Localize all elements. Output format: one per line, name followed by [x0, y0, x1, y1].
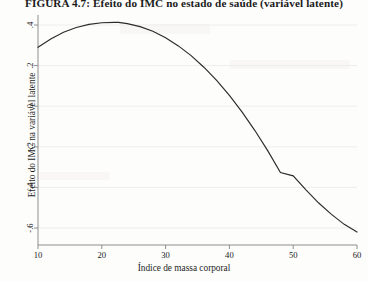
plot-area: .4.20-.2-.4-.6 102030405060 Efeito do IM… [0, 0, 368, 281]
x-axis-label: Índice de massa corporal [0, 263, 368, 273]
chart-svg: .4.20-.2-.4-.6 102030405060 [0, 0, 368, 281]
gridlines [38, 25, 357, 228]
x-axis-ticks: 102030405060 [34, 245, 362, 260]
svg-text:20: 20 [98, 250, 107, 260]
data-curve [38, 22, 357, 232]
svg-text:30: 30 [161, 250, 170, 260]
svg-text:60: 60 [353, 250, 362, 260]
svg-text:40: 40 [225, 250, 234, 260]
svg-text:.4: .4 [25, 21, 35, 28]
figure-container: FIGURA 4.7: Efeito do IMC no estado de s… [0, 0, 368, 281]
svg-text:10: 10 [34, 250, 43, 260]
y-axis-label: Efeito do IMC na variável latente [27, 40, 37, 230]
svg-text:50: 50 [289, 250, 298, 260]
